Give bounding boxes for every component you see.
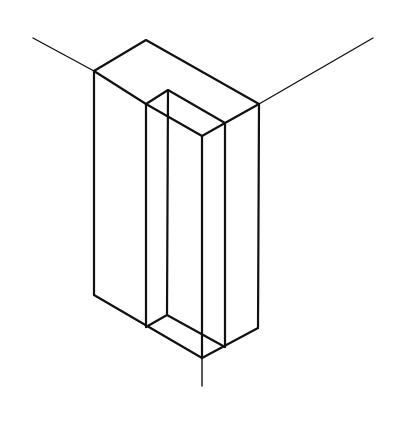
outer-top-front-right-edge bbox=[225, 104, 259, 123]
outer-right-vertical bbox=[258, 104, 259, 328]
right-axis-line bbox=[259, 38, 373, 104]
inner-back-vertical bbox=[167, 90, 168, 315]
isometric-diagram: Isometric view of a rectangular block wi… bbox=[0, 0, 404, 421]
inner-top-edges bbox=[146, 90, 225, 136]
outer-top-front-left-edge bbox=[94, 71, 146, 104]
diagram-svg bbox=[0, 0, 404, 421]
left-axis-line bbox=[33, 38, 94, 71]
outer-bottom-right-edge bbox=[202, 328, 258, 358]
